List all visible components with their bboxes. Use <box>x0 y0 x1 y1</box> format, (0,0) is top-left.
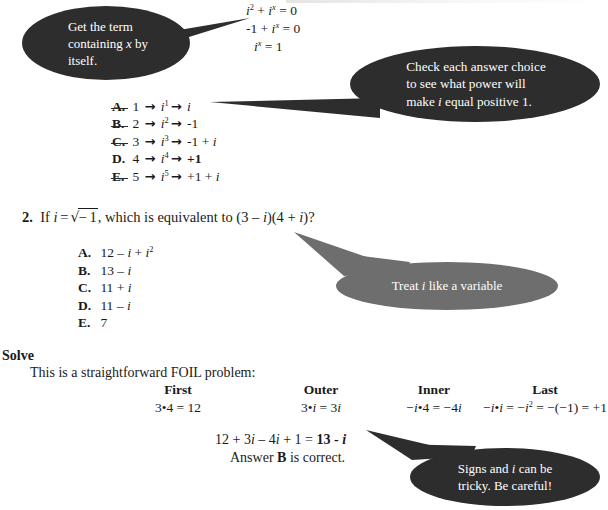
q2-choice-b: B. 13 – i <box>78 262 153 280</box>
final-answer-line: Answer B is correct. <box>230 450 345 466</box>
foil-inner-expr: −i•4 = −4i <box>406 400 461 416</box>
arrow-icon: → <box>143 151 158 166</box>
q2-choice-c: C. 11 + i <box>78 279 153 297</box>
foil-outer-title: Outer <box>301 382 341 398</box>
final-equation-rhs: 13 - i <box>316 432 346 447</box>
solve-heading: Solve <box>2 348 34 364</box>
callout-get-term-text: Get the term containing x by itself. <box>50 18 162 69</box>
q1-choice-a-input: 1 <box>132 99 139 114</box>
q1-choice-d-label: D. <box>112 150 129 167</box>
equation-line-2: -1 + ix = 0 <box>246 20 300 38</box>
q1-choice-c-label: C. <box>112 133 129 150</box>
q1-choice-d-power: i4 <box>161 151 169 166</box>
arrow-icon: → <box>169 169 184 184</box>
question2-stem-prefix: If i = <box>37 209 69 225</box>
foil-first-expr: 3•4 = 12 <box>155 400 201 416</box>
q1-choice-b: B. 2 → i2→ -1 <box>112 115 220 132</box>
final-equation: 12 + 3i – 4i + 1 = 13 - i <box>215 432 346 448</box>
foil-column-last: Last −i•i = −i2 = −(−1) = +1 <box>483 382 607 416</box>
q2-choice-d-text: 11 – i <box>100 298 130 313</box>
equations-top: i2 + ix = 0 -1 + ix = 0 ix = 1 <box>246 2 300 56</box>
question2-stem-suffix: , which is equivalent to (3 – i)(4 + i)? <box>98 209 315 225</box>
q1-choice-c-input: 3 <box>132 134 139 149</box>
arrow-icon: → <box>169 134 184 149</box>
q2-choice-a: A. 12 – i + i2 <box>78 244 153 262</box>
callout-get-term-line1: Get the term <box>68 18 148 35</box>
q1-choice-e-input: 5 <box>132 169 139 184</box>
q2-choice-e-text: 7 <box>100 315 107 330</box>
callout-check-answers-text: Check each answer choice to see what pow… <box>390 58 560 111</box>
final-answer-letter: B <box>277 450 286 465</box>
arrow-icon: → <box>169 116 184 131</box>
q1-choice-c: C. 3 → i3→ -1 + i <box>112 133 220 150</box>
callout-treat-variable-text: Treat i like a variable <box>378 278 517 294</box>
callout-treat-variable: Treat i like a variable <box>336 262 558 310</box>
foil-inner-title: Inner <box>406 382 461 398</box>
foil-last-title: Last <box>483 382 607 398</box>
q1-choice-e-result: +1 + i <box>187 169 220 184</box>
final-equation-lhs: 12 + 3i – 4i + 1 = <box>215 432 316 447</box>
q1-choice-a-label: A. <box>112 98 129 115</box>
foil-column-first: First 3•4 = 12 <box>155 382 201 416</box>
q2-choice-d-label: D. <box>78 297 97 315</box>
final-answer-suffix: is correct. <box>286 450 345 465</box>
callout-get-term: Get the term containing x by itself. <box>22 6 190 80</box>
question2-number: 2. <box>22 209 33 225</box>
q2-choice-a-label: A. <box>78 244 97 262</box>
callout-get-term-line2: containing x by <box>68 35 148 52</box>
foil-column-outer: Outer 3•i = 3i <box>301 382 341 416</box>
q1-choice-c-result: -1 + i <box>187 134 216 149</box>
worksheet-page: i2 + ix = 0 -1 + ix = 0 ix = 1 Get the t… <box>0 0 608 510</box>
q1-choice-b-input: 2 <box>132 116 139 131</box>
q1-choice-a: A. 1 → i1→ i <box>112 98 220 115</box>
question2-stem: 2. If i =√− 1, which is equivalent to (3… <box>22 208 315 226</box>
callout-signs-tricky: Signs and i can be tricky. Be careful! <box>410 448 600 506</box>
radicand-value: − 1 <box>78 208 97 226</box>
callout-signs-line2: tricky. Be careful! <box>458 477 553 494</box>
arrow-icon: → <box>143 99 158 114</box>
q1-choice-e-power: i5 <box>161 169 169 184</box>
arrow-icon: → <box>169 151 184 166</box>
arrow-icon: → <box>143 116 158 131</box>
foil-first-title: First <box>155 382 201 398</box>
arrow-icon: → <box>169 99 184 114</box>
q1-choice-a-power: i1 <box>161 99 169 114</box>
q2-choice-e: E. 7 <box>78 314 153 332</box>
q2-choice-d: D. 11 – i <box>78 297 153 315</box>
equation-line-1: i2 + ix = 0 <box>246 2 300 20</box>
q2-choice-b-label: B. <box>78 262 97 280</box>
arrow-icon: → <box>143 134 158 149</box>
callout-check-line1: Check each answer choice <box>406 58 546 76</box>
callout-signs-tricky-text: Signs and i can be tricky. Be careful! <box>444 460 567 494</box>
q1-choice-c-power: i3 <box>161 134 169 149</box>
equation-line-3: ix = 1 <box>246 38 300 56</box>
q2-choice-a-text: 12 – i + i2 <box>100 245 153 260</box>
q1-choice-d-input: 4 <box>132 151 139 166</box>
q1-choice-d: D. 4 → i4→ +1 <box>112 150 220 167</box>
callout-get-term-line3: itself. <box>68 52 148 69</box>
callout-signs-line1: Signs and i can be <box>458 460 553 477</box>
callout-check-line2: to see what power will <box>406 75 546 93</box>
q1-choice-e: E. 5 → i5→ +1 + i <box>112 168 220 185</box>
callout-check-answers: Check each answer choice to see what pow… <box>350 46 600 122</box>
arrow-icon: → <box>143 169 158 184</box>
q2-choice-e-label: E. <box>78 314 97 332</box>
q1-choice-d-result: +1 <box>187 151 201 166</box>
page-top-scan-artifact <box>286 0 586 3</box>
foil-last-expr: −i•i = −i2 = −(−1) = +1 <box>483 400 607 416</box>
q1-choice-b-label: B. <box>112 115 129 132</box>
radical-expression: √− 1 <box>69 208 98 226</box>
q2-choice-c-label: C. <box>78 279 97 297</box>
q2-choice-c-text: 11 + i <box>100 280 131 295</box>
q1-choice-b-result: -1 <box>187 116 198 131</box>
foil-outer-expr: 3•i = 3i <box>301 400 341 416</box>
callout-tail-check-answers <box>210 96 380 122</box>
final-answer-prefix: Answer <box>230 450 277 465</box>
question1-choices: A. 1 → i1→ i B. 2 → i2→ -1 C. 3 → i3→ -1… <box>112 98 220 185</box>
q2-choice-b-text: 13 – i <box>100 263 131 278</box>
q1-choice-a-result: i <box>187 99 191 114</box>
callout-check-line3: make i equal positive 1. <box>406 93 546 111</box>
q1-choice-b-power: i2 <box>161 116 169 131</box>
q1-choice-e-label: E. <box>112 168 129 185</box>
foil-table: First 3•4 = 12 Outer 3•i = 3i Inner −i•4… <box>0 382 608 424</box>
